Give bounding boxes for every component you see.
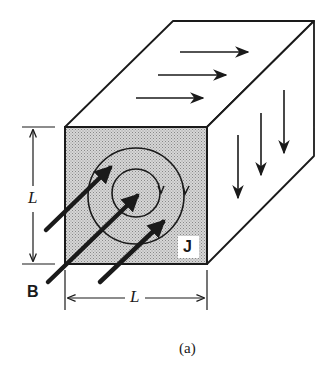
magnetic-field-label: B: [27, 283, 39, 301]
current-density-label: J: [183, 238, 192, 256]
height-label: L: [27, 188, 38, 208]
width-label: L: [130, 287, 139, 307]
figure-caption: (a): [179, 340, 196, 357]
diagram-canvas: [0, 0, 334, 375]
